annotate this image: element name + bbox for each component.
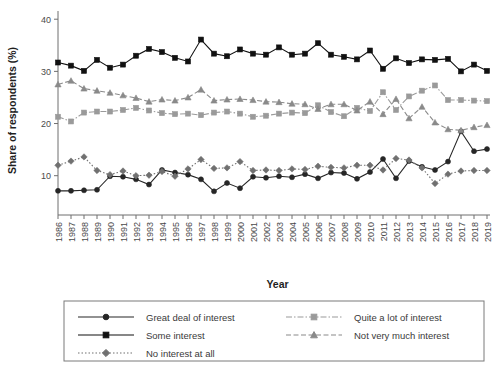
x-tick-label: 1996 — [184, 222, 194, 242]
x-tick-label: 1988 — [80, 222, 90, 242]
x-tick-label: 2005 — [301, 222, 311, 242]
x-tick-label: 2011 — [379, 222, 389, 241]
data-point — [471, 167, 477, 173]
data-point — [277, 111, 282, 116]
legend-label: Not very much interest — [354, 330, 449, 341]
data-point — [355, 57, 360, 62]
x-tick-label: 2008 — [340, 222, 350, 242]
data-point — [68, 158, 74, 164]
data-point — [446, 56, 451, 61]
data-point — [263, 167, 269, 173]
data-point — [69, 119, 74, 124]
data-point — [238, 111, 243, 116]
data-point — [81, 85, 87, 91]
x-tick-label: 2019 — [483, 222, 493, 242]
data-point — [108, 109, 113, 114]
x-tick-label: 2016 — [444, 222, 454, 242]
data-point — [147, 46, 152, 51]
data-point — [108, 65, 113, 70]
data-point — [433, 57, 438, 62]
data-point — [81, 154, 87, 160]
data-point — [485, 68, 490, 73]
data-point — [199, 113, 204, 118]
data-point — [381, 66, 386, 71]
x-tick-label: 2012 — [392, 222, 402, 242]
y-tick-label: 10 — [41, 171, 51, 181]
data-point — [121, 107, 126, 112]
data-point — [329, 110, 334, 115]
x-tick-label: 2009 — [353, 222, 363, 242]
data-point — [69, 188, 74, 193]
data-point — [264, 52, 269, 57]
data-point — [134, 53, 139, 58]
data-point — [211, 165, 217, 171]
legend-marker — [311, 314, 317, 320]
data-point — [276, 167, 282, 173]
x-axis-group: 1986198719881989199019911992199319941995… — [54, 215, 493, 242]
data-point — [159, 96, 165, 102]
data-point — [56, 114, 61, 119]
series-group — [55, 37, 490, 194]
data-point — [394, 176, 399, 181]
data-point — [146, 172, 152, 178]
data-point — [290, 52, 295, 57]
data-point — [68, 78, 74, 84]
data-point — [394, 56, 399, 61]
data-point — [277, 45, 282, 50]
data-point — [342, 54, 347, 59]
data-point — [484, 122, 490, 128]
data-point — [56, 188, 61, 193]
data-point — [212, 51, 217, 56]
data-point — [185, 94, 191, 100]
data-point — [120, 168, 126, 174]
data-point — [82, 68, 87, 73]
data-point — [69, 63, 74, 68]
data-point — [147, 108, 152, 113]
data-point — [250, 167, 256, 173]
data-point — [342, 114, 347, 119]
legend-label: No interest at all — [146, 348, 215, 359]
data-point — [199, 177, 204, 182]
data-point — [82, 188, 87, 193]
data-point — [121, 174, 126, 179]
line-chart: 10203040 1986198719881989199019911992199… — [0, 0, 497, 366]
x-tick-label: 2002 — [262, 222, 272, 242]
data-point — [446, 159, 451, 164]
series-3 — [55, 78, 490, 133]
chart-figure: 10203040 1986198719881989199019911992199… — [0, 0, 497, 366]
data-point — [407, 61, 412, 66]
data-point — [394, 107, 399, 112]
data-point — [393, 155, 399, 161]
data-point — [147, 182, 152, 187]
data-point — [173, 55, 178, 60]
y-axis-label: Share of respondents (%) — [6, 47, 18, 174]
data-point — [380, 111, 386, 117]
data-point — [368, 170, 373, 175]
legend-label: Great deal of interest — [146, 312, 235, 323]
data-point — [393, 96, 399, 102]
data-point — [225, 181, 230, 186]
data-point — [459, 98, 464, 103]
data-point — [56, 60, 61, 65]
series-0 — [56, 129, 490, 194]
x-tick-label: 1999 — [223, 222, 233, 242]
x-tick-label: 2004 — [288, 222, 298, 242]
y-tick-label: 30 — [41, 67, 51, 77]
legend-label: Quite a lot of interest — [354, 312, 442, 323]
data-point — [380, 167, 386, 173]
x-tick-label: 1998 — [210, 222, 220, 242]
data-point — [55, 162, 61, 168]
data-point — [484, 167, 490, 173]
data-point — [277, 174, 282, 179]
data-point — [290, 175, 295, 180]
data-point — [186, 172, 191, 177]
data-point — [341, 165, 347, 171]
x-tick-label: 2006 — [314, 222, 324, 242]
data-point — [367, 99, 373, 105]
data-point — [160, 111, 165, 116]
data-point — [264, 175, 269, 180]
data-point — [446, 98, 451, 103]
data-point — [316, 176, 321, 181]
x-tick-label: 1989 — [93, 222, 103, 242]
data-point — [185, 166, 191, 172]
